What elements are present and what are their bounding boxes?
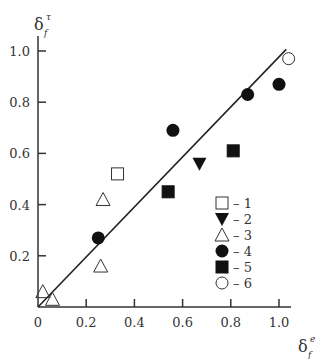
y-axis-label: δ (34, 15, 44, 34)
x-tick-label: 0.8 (220, 315, 241, 330)
x-axis-label-sup: e (310, 334, 315, 344)
scatter-chart: 00.20.40.60.81.0 0.20.40.60.81.0 – 1– 2–… (0, 0, 320, 359)
x-axis-label-sub: f (307, 350, 313, 359)
data-point-series-1 (112, 168, 124, 180)
y-ticks: 0.20.40.60.81.0 (9, 44, 46, 264)
x-tick-label: 0.2 (76, 315, 97, 330)
y-axis-label-sup: τ (46, 12, 52, 22)
data-point-series-3 (94, 259, 108, 272)
x-axis-label: δ (298, 337, 308, 356)
legend: – 1– 2– 3– 4– 5– 6 (215, 196, 252, 291)
x-ticks: 00.20.40.60.81.0 (34, 299, 289, 330)
y-axis-label-sub: f (43, 28, 49, 38)
data-point-series-3 (96, 192, 110, 205)
data-point-series-5 (162, 186, 174, 198)
data-point-series-4 (273, 78, 286, 91)
legend-marker-filled-triangle-down-icon (215, 213, 229, 226)
y-tick-label: 0.4 (9, 198, 30, 213)
legend-marker-open-circle-icon (216, 277, 228, 289)
legend-label: – 6 (233, 276, 252, 291)
data-points (36, 53, 295, 306)
legend-marker-filled-circle-icon (216, 245, 229, 258)
legend-label: – 2 (233, 212, 252, 227)
x-tick-label: 0.4 (124, 315, 145, 330)
legend-label: – 5 (233, 260, 252, 275)
data-point-series-5 (227, 145, 239, 157)
data-point-series-4 (241, 88, 254, 101)
y-tick-label: 1.0 (9, 44, 30, 59)
data-point-series-4 (166, 124, 179, 137)
data-point-series-6 (283, 53, 295, 65)
legend-marker-open-triangle-up-icon (215, 228, 229, 241)
legend-label: – 4 (233, 244, 252, 259)
legend-marker-open-square-icon (216, 197, 228, 209)
legend-label: – 1 (233, 196, 252, 211)
data-point-series-4 (92, 231, 105, 244)
axes (38, 36, 291, 307)
legend-label: – 3 (233, 228, 252, 243)
legend-marker-filled-square-icon (216, 261, 228, 273)
x-tick-label: 1.0 (269, 315, 290, 330)
y-tick-label: 0.8 (9, 95, 30, 110)
x-tick-label: 0 (34, 315, 42, 330)
y-tick-label: 0.2 (9, 249, 30, 264)
data-point-series-2 (192, 158, 206, 171)
y-tick-label: 0.6 (9, 146, 30, 161)
x-tick-label: 0.6 (172, 315, 193, 330)
